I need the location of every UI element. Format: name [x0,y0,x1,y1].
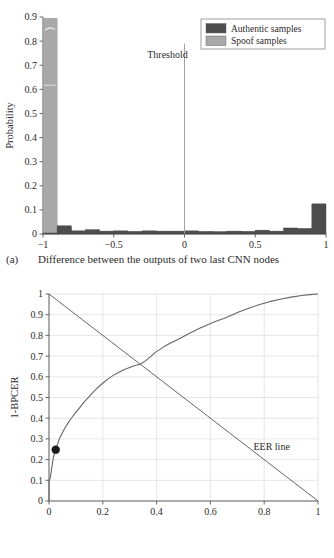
y-tick-label: 0.6 [25,84,38,95]
bar-authentic [241,231,255,234]
x-tick-label: 1 [324,239,329,250]
roc-curve [49,294,318,481]
y-tick-label: 0.7 [31,351,44,362]
bar-authentic [156,231,170,234]
y-tick-label: 0.4 [25,132,38,143]
y-tick-label: 0.1 [25,204,38,215]
roc-plot: 00.10.20.30.40.50.60.70.80.9100.20.40.60… [0,280,334,535]
bar-authentic [269,231,283,234]
bar-authentic [114,231,128,234]
x-tick-label: 0 [47,506,52,517]
bar-spoof [43,18,57,234]
x-tick-label: 0 [182,239,187,250]
bar-authentic [284,228,298,234]
bar-authentic [199,231,213,234]
eer-line-label: EER line [253,441,290,452]
bar-authentic [170,231,184,234]
x-tick-label: 0.6 [204,506,217,517]
x-tick-label: 0.2 [97,506,110,517]
threshold-label: Threshold [147,49,188,60]
bar-authentic [43,233,57,234]
x-tick-label: 0.8 [258,506,271,517]
y-tick-label: 1 [38,288,43,299]
y-tick-label: 0.5 [25,108,38,119]
x-tick-label: 0.5 [249,239,262,250]
bar-authentic [298,228,312,234]
y-axis-title: 1-BPCER [9,376,20,418]
figure-a-xaxis-caption: Difference between the outputs of two la… [38,253,279,265]
x-tick-label: 1 [316,506,321,517]
y-tick-label: 0.8 [25,36,38,47]
y-tick-label: 0.4 [31,413,44,424]
y-tick-label: 0.1 [31,475,44,486]
bar-authentic [255,230,269,234]
y-tick-label: 0 [32,228,37,239]
legend-swatch [206,36,226,46]
figure-a-panel-label: (a) [6,253,18,265]
y-tick-label: 0.2 [31,454,44,465]
bar-authentic [128,231,142,234]
y-tick-label: 0.5 [31,392,44,403]
bar-authentic [227,231,241,234]
y-tick-label: 0.9 [31,309,44,320]
y-tick-label: 0.3 [31,433,44,444]
x-tick-label: 0.4 [150,506,163,517]
y-tick-label: 0.2 [25,180,38,191]
legend: Authentic samplesSpoof samples [201,19,325,49]
y-tick-label: 0.3 [25,156,38,167]
y-tick-label: 0.7 [25,60,38,71]
y-tick-label: 0 [38,495,43,506]
bar-authentic [71,231,85,234]
figure-b-roc: 00.10.20.30.40.50.60.70.80.9100.20.40.60… [0,280,334,558]
histogram-plot: 00.10.20.30.40.50.60.70.80.9−1−0.500.51P… [0,0,334,252]
bar-authentic [85,230,99,234]
bar-authentic [185,231,199,234]
y-tick-label: 0.8 [31,330,44,341]
x-tick-label: −1 [38,239,49,250]
bar-authentic [57,226,71,234]
bar-authentic [213,232,227,234]
figure-a-histogram: 00.10.20.30.40.50.60.70.80.9−1−0.500.51P… [0,0,334,280]
bar-authentic [100,231,114,234]
x-tick-label: −0.5 [105,239,123,250]
legend-label: Spoof samples [231,36,287,46]
legend-label: Authentic samples [231,24,302,34]
y-tick-label: 0.6 [31,371,44,382]
operating-point-marker [52,445,60,453]
bar-authentic [142,231,156,234]
y-tick-label: 0.9 [25,11,38,22]
legend-swatch [206,24,226,34]
y-axis-title: Probability [4,101,15,148]
bar-authentic [312,204,326,234]
